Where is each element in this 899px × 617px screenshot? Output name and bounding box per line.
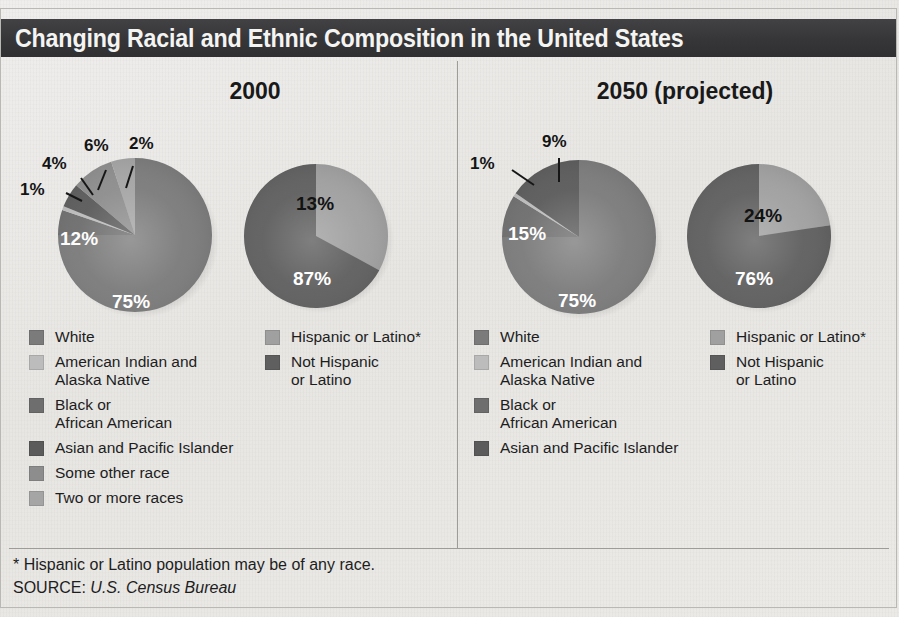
legend-item[interactable]: American Indian andAlaska Native bbox=[29, 353, 239, 389]
legend-hispanic-2000: Hispanic or Latino* Not Hispanicor Latin… bbox=[265, 328, 450, 396]
legend-swatch-icon bbox=[29, 441, 44, 456]
legend-item[interactable]: Black orAfrican American bbox=[29, 396, 239, 432]
legend-item-label: White bbox=[55, 328, 95, 346]
callout-4-percent-race-2000: 4% bbox=[42, 154, 67, 174]
legend-item[interactable]: White bbox=[29, 328, 239, 346]
pie-chart-race-2000: 1% 4% 6% 2% 12% 75% bbox=[48, 148, 233, 328]
legend-swatch-icon bbox=[29, 330, 44, 345]
header-bar: Changing Racial and Ethnic Composition i… bbox=[1, 19, 896, 57]
legend-item[interactable]: Some other race bbox=[29, 464, 239, 482]
label-76-percent-hispanic-2050: 76% bbox=[735, 268, 773, 290]
legend-swatch-icon bbox=[474, 355, 489, 370]
callout-1-percent-race-2050: 1% bbox=[470, 154, 495, 174]
column-divider bbox=[457, 61, 458, 548]
column-heading-2050: 2050 (projected) bbox=[520, 78, 850, 105]
label-24-percent-hispanic-2050: 24% bbox=[744, 205, 782, 227]
legend-swatch-icon bbox=[29, 466, 44, 481]
legend-item-label: Asian and Pacific Islander bbox=[55, 439, 233, 457]
legend-swatch-icon bbox=[265, 330, 280, 345]
legend-item-label: American Indian andAlaska Native bbox=[500, 353, 642, 389]
footnote: * Hispanic or Latino population may be o… bbox=[13, 556, 375, 574]
legend-item-label: Hispanic or Latino* bbox=[291, 328, 421, 346]
footer-divider bbox=[9, 548, 889, 549]
pie-chart-hispanic-2000: 13% 87% bbox=[240, 160, 400, 316]
legend-item-label: American Indian andAlaska Native bbox=[55, 353, 197, 389]
label-87-percent-hispanic-2000: 87% bbox=[293, 268, 331, 290]
legend-item-label: White bbox=[500, 328, 540, 346]
legend-item[interactable]: Not Hispanicor Latino bbox=[265, 353, 450, 389]
legend-item[interactable]: Two or more races bbox=[29, 489, 239, 507]
source-line: SOURCE: U.S. Census Bureau bbox=[13, 579, 236, 597]
label-75-percent-race-2000: 75% bbox=[112, 291, 150, 313]
legend-race-2050: White American Indian andAlaska Native B… bbox=[474, 328, 684, 464]
infographic-page: Changing Racial and Ethnic Composition i… bbox=[0, 0, 899, 617]
legend-item-label: Asian and Pacific Islander bbox=[500, 439, 678, 457]
legend-item[interactable]: Not Hispanicor Latino bbox=[710, 353, 895, 389]
legend-item-label: Some other race bbox=[55, 464, 170, 482]
legend-item[interactable]: Asian and Pacific Islander bbox=[29, 439, 239, 457]
legend-item-label: Not Hispanicor Latino bbox=[291, 353, 379, 389]
legend-swatch-icon bbox=[265, 355, 280, 370]
legend-item[interactable]: Hispanic or Latino* bbox=[710, 328, 895, 346]
legend-item-label: Two or more races bbox=[55, 489, 183, 507]
legend-item-label: Black orAfrican American bbox=[500, 396, 617, 432]
legend-race-2000: White American Indian andAlaska Native B… bbox=[29, 328, 239, 514]
legend-swatch-icon bbox=[474, 330, 489, 345]
source-value: U.S. Census Bureau bbox=[90, 579, 236, 596]
legend-swatch-icon bbox=[29, 398, 44, 413]
pie-chart-race-2050: 1% 9% 15% 75% bbox=[492, 150, 677, 330]
legend-swatch-icon bbox=[710, 330, 725, 345]
legend-item-label: Not Hispanicor Latino bbox=[736, 353, 824, 389]
callout-1-percent-race-2000: 1% bbox=[20, 180, 45, 200]
label-75-percent-race-2050: 75% bbox=[558, 290, 596, 312]
legend-item[interactable]: Hispanic or Latino* bbox=[265, 328, 450, 346]
pie-hispanic-2050-svg bbox=[683, 160, 843, 316]
label-15-percent-race-2050: 15% bbox=[508, 223, 546, 245]
pie-chart-hispanic-2050: 24% 76% bbox=[683, 160, 843, 316]
legend-swatch-icon bbox=[474, 398, 489, 413]
legend-item[interactable]: American Indian andAlaska Native bbox=[474, 353, 684, 389]
callout-2-percent-race-2000: 2% bbox=[129, 134, 154, 154]
legend-item[interactable]: Asian and Pacific Islander bbox=[474, 439, 684, 457]
source-label: SOURCE: bbox=[13, 579, 86, 596]
legend-item[interactable]: White bbox=[474, 328, 684, 346]
legend-item-label: Hispanic or Latino* bbox=[736, 328, 866, 346]
legend-swatch-icon bbox=[710, 355, 725, 370]
legend-swatch-icon bbox=[29, 355, 44, 370]
pie-hispanic-2000-svg bbox=[240, 160, 400, 316]
legend-hispanic-2050: Hispanic or Latino* Not Hispanicor Latin… bbox=[710, 328, 895, 396]
callout-9-percent-race-2050: 9% bbox=[542, 132, 567, 152]
legend-swatch-icon bbox=[29, 491, 44, 506]
column-heading-2000: 2000 bbox=[120, 78, 390, 105]
legend-item-label: Black orAfrican American bbox=[55, 396, 172, 432]
label-12-percent-race-2000: 12% bbox=[60, 228, 98, 250]
callout-6-percent-race-2000: 6% bbox=[84, 136, 109, 156]
legend-swatch-icon bbox=[474, 441, 489, 456]
label-13-percent-hispanic-2000: 13% bbox=[296, 193, 334, 215]
legend-item[interactable]: Black orAfrican American bbox=[474, 396, 684, 432]
page-title: Changing Racial and Ethnic Composition i… bbox=[15, 24, 683, 53]
